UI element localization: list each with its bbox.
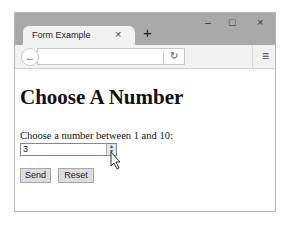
close-window-button[interactable]: × [257, 16, 263, 28]
menu-separator [252, 45, 253, 69]
maximize-button[interactable]: □ [229, 16, 236, 28]
number-label: Choose a number between 1 and 10: [20, 130, 173, 141]
tab-title: Form Example [32, 30, 91, 40]
title-bar: Form Example × + – □ × [15, 13, 275, 45]
send-button[interactable]: Send [20, 168, 51, 183]
browser-window: Form Example × + – □ × ↻ ← ≡ Choose A Nu… [14, 12, 276, 212]
new-tab-button[interactable]: + [143, 24, 152, 41]
page-heading: Choose A Number [20, 85, 183, 110]
tab-form-example[interactable]: Form Example × [23, 26, 135, 46]
hamburger-menu-icon[interactable]: ≡ [262, 49, 269, 63]
minimize-button[interactable]: – [205, 16, 211, 28]
reset-button[interactable]: Reset [58, 168, 94, 183]
reload-icon[interactable]: ↻ [170, 50, 178, 61]
nav-toolbar: ↻ ← ≡ [15, 45, 275, 69]
mouse-cursor-icon [110, 151, 124, 171]
url-separator [163, 51, 164, 63]
back-arrow-icon[interactable]: ← [21, 48, 39, 66]
number-input[interactable]: 3 ▲ ▼ [20, 143, 117, 156]
tab-close-icon[interactable]: × [115, 28, 121, 40]
number-value: 3 [23, 144, 28, 154]
address-bar[interactable]: ↻ [37, 48, 185, 65]
